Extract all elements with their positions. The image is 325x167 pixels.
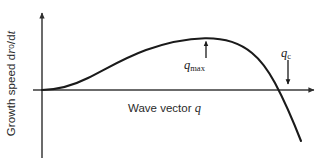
x-axis-label-var: q (195, 101, 201, 115)
annotation-q-max: qmax (184, 58, 205, 73)
figure-container: Growth speed dr0/dt Wave vector q qmax q… (0, 0, 325, 167)
plot-svg (0, 0, 325, 167)
q-max-subscript: max (190, 63, 205, 73)
x-axis-label-text: Wave vector (128, 102, 191, 114)
q-c-subscript: c (287, 51, 291, 61)
annotation-q-c: qc (281, 46, 291, 61)
x-axis-label: Wave vector q (42, 101, 287, 116)
